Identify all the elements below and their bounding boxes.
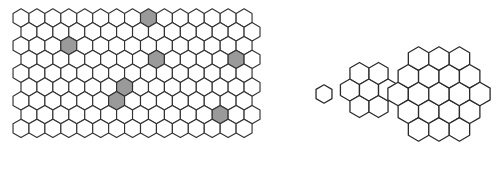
lattice-cell[interactable] — [13, 119, 29, 137]
lattice-cell[interactable] — [156, 119, 172, 137]
lattice-cell[interactable] — [236, 119, 252, 137]
cluster-ring-0 — [316, 85, 332, 103]
hex-lattice-figure — [0, 0, 497, 188]
lattice-cell[interactable] — [29, 119, 45, 137]
lattice-cell[interactable] — [172, 119, 188, 137]
lattice-cell[interactable] — [125, 119, 141, 137]
lattice-cell[interactable] — [141, 119, 157, 137]
lattice-cell[interactable] — [93, 119, 109, 137]
lattice-cell[interactable] — [61, 119, 77, 137]
figure-root — [0, 0, 497, 188]
lattice-cell[interactable] — [220, 119, 236, 137]
lattice-cell[interactable] — [204, 119, 220, 137]
hex-cluster-group — [316, 47, 490, 141]
cluster-cell[interactable] — [470, 82, 490, 106]
lattice-cell[interactable] — [45, 119, 61, 137]
lattice-cell[interactable] — [77, 119, 93, 137]
cluster-cell[interactable] — [316, 85, 332, 103]
cluster-ring-2 — [388, 47, 490, 141]
lattice-cell[interactable] — [109, 119, 125, 137]
honeycomb-grid — [13, 9, 260, 138]
lattice-cell[interactable] — [188, 119, 204, 137]
